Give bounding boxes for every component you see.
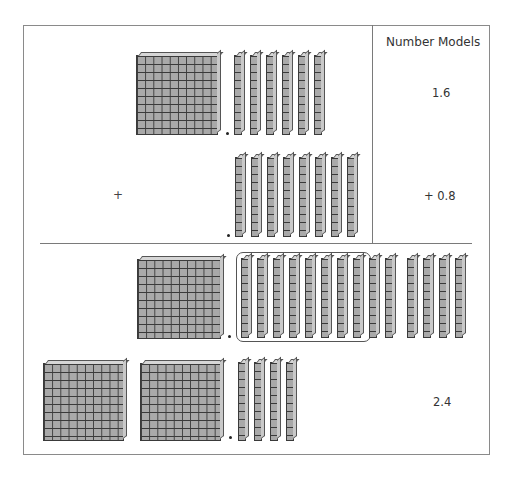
plus-operator: + [113,188,123,202]
rod-block [238,362,246,441]
rod-block [331,157,339,237]
rod-block [266,55,274,135]
number-models-header: Number Models [386,35,480,49]
decimal-point [229,436,232,439]
rod-block [299,157,307,237]
rod-block [235,157,243,237]
decimal-point [226,132,229,135]
rod-block [282,55,290,135]
rod-block [305,258,313,338]
rod-block [257,258,265,338]
rod-block [315,157,323,237]
rod-block [407,258,415,338]
rod-block [314,55,322,135]
rod-block [439,258,447,338]
flat-block [43,363,124,441]
rod-block [283,157,291,237]
rod-block [270,362,278,441]
rod-block [234,55,242,135]
rod-block [321,258,329,338]
rod-block [423,258,431,338]
rod-block [455,258,463,338]
rod-block [353,258,361,338]
rod-block [289,258,297,338]
number-model-result: 2.4 [433,395,451,409]
flat-block [136,55,218,135]
decimal-point [228,335,231,338]
rod-block [241,258,249,338]
rod-block [369,258,377,338]
rod-block [254,362,262,441]
horizontal-divider [40,243,472,244]
number-model-addend2: + 0.8 [424,189,456,203]
rod-block [273,258,281,338]
rod-block [347,157,355,237]
decimal-point [227,234,230,237]
rod-block [250,55,258,135]
rod-block [337,258,345,338]
rod-block [286,362,294,441]
rod-block [385,258,393,338]
vertical-divider [372,25,373,243]
flat-block [140,363,221,441]
number-model-addend1: 1.6 [432,86,450,100]
rod-block [267,157,275,237]
rod-block [298,55,306,135]
rod-block [251,157,259,237]
flat-block [137,259,221,339]
